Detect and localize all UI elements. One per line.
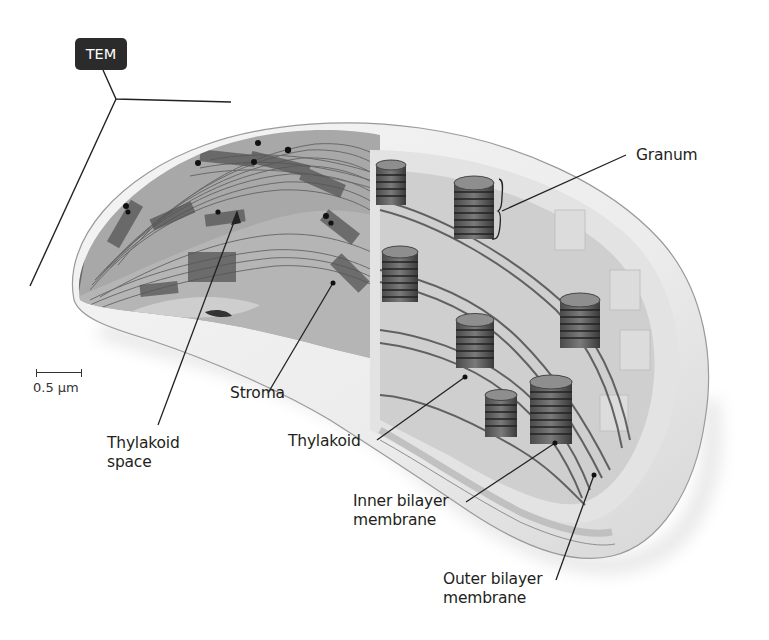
label-thylakoid: Thylakoid [288, 432, 361, 451]
tem-badge: TEM [75, 38, 127, 70]
label-granum: Granum [636, 146, 697, 165]
label-inner-membrane: Inner bilayer membrane [353, 492, 449, 530]
chloroplast-figure: TEM 0.5 µm Granum Stroma Thylakoid space… [0, 0, 769, 640]
label-inner-membrane-line1: Inner bilayer [353, 492, 449, 511]
scale-bar-line [36, 369, 82, 377]
scale-bar-label: 0.5 µm [33, 380, 79, 395]
label-stroma: Stroma [230, 384, 285, 403]
label-thylakoid-space-line2: space [107, 453, 180, 472]
chloroplast-illustration [0, 0, 769, 640]
label-inner-membrane-line2: membrane [353, 511, 449, 530]
label-outer-membrane-line2: membrane [443, 589, 542, 608]
label-thylakoid-space-line1: Thylakoid [107, 434, 180, 453]
label-outer-membrane-line1: Outer bilayer [443, 570, 542, 589]
label-thylakoid-space: Thylakoid space [107, 434, 180, 472]
label-outer-membrane: Outer bilayer membrane [443, 570, 542, 608]
